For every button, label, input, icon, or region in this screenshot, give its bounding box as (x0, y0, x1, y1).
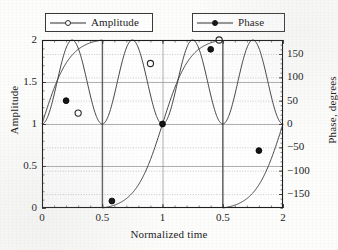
x-axis-tick-label: 0 (22, 212, 62, 223)
x-axis-tick-label: 2 (263, 212, 303, 223)
filled-circle-marker-icon (212, 20, 218, 26)
phase-data-marker[interactable] (160, 121, 166, 127)
legend-sample-phase (197, 17, 233, 29)
y-axis-left-tick-label: 1.5 (3, 76, 37, 87)
y-axis-left-tick-label: 0.5 (3, 160, 37, 171)
legend-sample-amplitude (50, 17, 86, 29)
y-axis-right-tick-label: −100 (287, 165, 327, 176)
y-axis-left-tick-label: 1 (3, 118, 37, 129)
y-axis-right-tick-label: 100 (287, 71, 327, 82)
y-axis-left-tick-label: 2 (3, 34, 37, 45)
x-axis-tick-label: 1 (143, 212, 183, 223)
x-axis-tick-label: 0.5 (82, 212, 122, 223)
y-axis-right-tick-label: −150 (287, 188, 327, 199)
open-circle-marker-icon (65, 20, 71, 26)
y-axis-right-title: Phase, degrees (326, 55, 338, 165)
amplitude-data-marker[interactable] (147, 60, 153, 66)
amplitude-data-marker[interactable] (75, 110, 81, 116)
phase-data-marker[interactable] (256, 148, 262, 154)
y-axis-right-tick-label: 150 (287, 48, 327, 59)
legend-label-amplitude: Amplitude (91, 17, 139, 28)
legend-item-amplitude[interactable]: Amplitude (45, 13, 153, 32)
y-axis-right-tick-label: 0 (287, 118, 327, 129)
y-axis-right-tick-label: −50 (287, 141, 327, 152)
phase-data-marker[interactable] (109, 198, 115, 204)
phase-data-marker[interactable] (208, 46, 214, 52)
x-axis-title: Normalized time (0, 228, 338, 240)
y-axis-right-tick-label: 50 (287, 95, 327, 106)
figure-container: Amplitude Phase Amplitude Phase, degrees… (0, 0, 338, 250)
legend-label-phase: Phase (238, 17, 264, 28)
x-axis-tick-label: 0.5 (203, 212, 243, 223)
legend-item-phase[interactable]: Phase (192, 13, 285, 32)
y-axis-left-tick-label: 0 (3, 202, 37, 213)
phase-data-marker[interactable] (63, 98, 69, 104)
